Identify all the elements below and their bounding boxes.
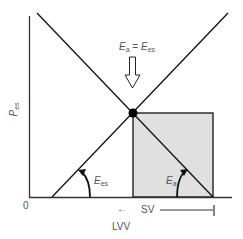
ea-equals-ees-annotation: Ea = Ees: [119, 42, 155, 53]
x-axis-label: LVV: [112, 222, 130, 232]
y-label-sub: es: [13, 102, 20, 109]
annotation-ees-sub: es: [148, 46, 155, 53]
origin-label: 0: [23, 201, 29, 211]
intersection-point: [129, 109, 138, 118]
y-axis-label: Pes: [9, 102, 20, 116]
annotation-ees-main: E: [141, 41, 148, 52]
ea-label-sub: a: [173, 180, 177, 187]
sv-label: SV: [141, 205, 154, 215]
sv-left-arrow-icon: ←: [117, 204, 127, 214]
annotation-ea-main: E: [119, 41, 126, 52]
annotation-equals: =: [130, 41, 141, 52]
down-arrow-icon: [125, 57, 140, 88]
ees-angle-arc: [82, 172, 90, 197]
ea-slope-label: Ea: [166, 176, 177, 187]
ees-label-main: E: [94, 175, 101, 186]
ea-label-main: E: [166, 175, 173, 186]
ees-label-sub: es: [101, 180, 108, 187]
ees-slope-label: Ees: [94, 176, 108, 187]
y-label-main: P: [8, 110, 19, 117]
